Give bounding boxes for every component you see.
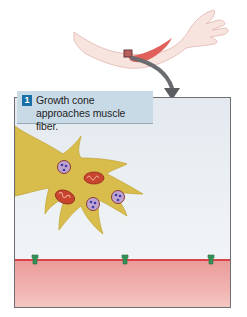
receptor-cluster-icon bbox=[207, 254, 215, 265]
vesicle bbox=[112, 191, 125, 204]
vesicle bbox=[58, 161, 71, 174]
vesicle bbox=[87, 198, 100, 211]
arm-skin bbox=[74, 10, 228, 68]
step-number-badge: 1 bbox=[22, 95, 32, 106]
receptor-cluster-icon bbox=[31, 254, 39, 265]
mitochondrion bbox=[84, 172, 104, 184]
step-caption-text: Growth cone approaches muscle fiber. bbox=[36, 94, 149, 133]
highlight-square bbox=[124, 50, 132, 57]
step-caption: 1 Growth cone approaches muscle fiber. bbox=[17, 91, 153, 124]
growth-cone bbox=[15, 126, 143, 234]
receptor-cluster-icon bbox=[121, 254, 129, 265]
